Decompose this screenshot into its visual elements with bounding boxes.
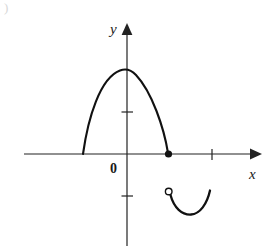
x-axis-label: x [248,166,256,182]
axes-group [24,23,262,246]
open-point-marker [165,188,172,195]
origin-label: 0 [110,161,117,176]
closed-point-marker [165,150,172,157]
y-axis-label: y [108,21,117,37]
x-axis-arrowhead [250,149,262,160]
y-axis-arrowhead [122,23,133,35]
corner-mark: ) [4,0,8,15]
lower-arc-curve [171,191,211,215]
graph-figure: ) y x 0 [0,0,268,248]
